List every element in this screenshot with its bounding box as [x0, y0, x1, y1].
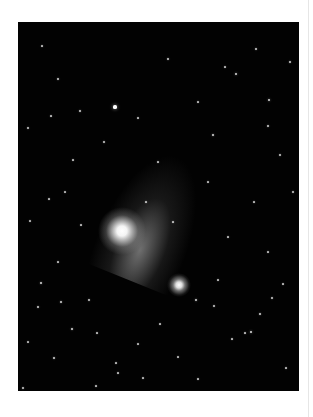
star: [285, 367, 286, 368]
star: [115, 362, 116, 363]
star: [40, 282, 42, 284]
star: [41, 45, 42, 46]
globular-cluster: [167, 273, 191, 297]
star: [22, 387, 23, 388]
star: [227, 236, 228, 237]
star: [57, 261, 58, 262]
star: [197, 101, 198, 102]
star: [157, 161, 158, 162]
star: [197, 378, 198, 379]
star: [103, 141, 104, 142]
star: [57, 78, 58, 79]
star: [172, 221, 173, 222]
star: [268, 99, 270, 101]
star: [79, 110, 80, 111]
star: [244, 332, 245, 333]
star: [53, 357, 55, 359]
star: [72, 159, 73, 160]
star: [137, 343, 138, 344]
star: [71, 328, 73, 330]
star: [195, 299, 197, 301]
star: [224, 66, 225, 67]
star: [267, 125, 268, 126]
right-edge-rule: [308, 0, 309, 417]
comet-nucleus: [98, 207, 146, 255]
star: [267, 251, 268, 252]
star: [253, 201, 254, 202]
star: [37, 306, 38, 307]
star: [117, 372, 118, 373]
star: [231, 338, 232, 339]
star: [271, 297, 272, 298]
star: [217, 279, 218, 280]
star: [142, 377, 143, 378]
star: [207, 181, 208, 182]
star: [279, 154, 280, 155]
star: [145, 201, 146, 202]
star: [213, 305, 214, 306]
comet-photograph: [18, 22, 299, 391]
star: [159, 323, 160, 324]
star: [289, 61, 291, 63]
star: [50, 115, 51, 116]
star: [80, 224, 81, 225]
star: [96, 332, 97, 333]
star: [167, 58, 168, 59]
star: [292, 191, 293, 192]
star: [282, 283, 283, 284]
star: [255, 48, 256, 49]
star: [29, 220, 30, 221]
star: [48, 198, 49, 199]
star: [137, 117, 138, 118]
star: [95, 385, 96, 386]
star: [259, 313, 261, 315]
star: [212, 134, 214, 136]
star: [27, 127, 28, 128]
star: [27, 341, 28, 342]
star: [177, 356, 178, 357]
star: [113, 105, 116, 108]
star: [88, 299, 89, 300]
star: [64, 191, 65, 192]
star: [250, 331, 252, 333]
star: [60, 301, 62, 303]
star: [235, 73, 237, 75]
